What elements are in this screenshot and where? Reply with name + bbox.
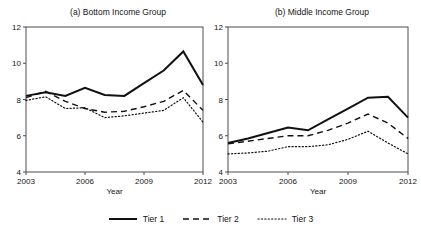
y-tick-label: 4	[219, 168, 224, 177]
legend-item-tier-2: Tier 2	[182, 214, 238, 224]
panel-b-plot: 46810122003200620092012Year	[205, 0, 421, 200]
figure: (a) Bottom Income Group 4681012200320062…	[0, 0, 421, 232]
x-axis-label: Year	[106, 187, 123, 196]
legend-swatch-tier2	[182, 214, 212, 224]
legend-item-tier-1: Tier 1	[108, 214, 164, 224]
y-tick-label: 10	[12, 59, 21, 68]
series-line-tier-2	[228, 114, 408, 144]
legend-swatch-tier3	[257, 214, 287, 224]
x-tick-label: 2012	[399, 177, 417, 186]
series-line-tier-1	[26, 51, 203, 95]
x-axis-label: Year	[310, 187, 327, 196]
chart-panel-a: (a) Bottom Income Group 4681012200320062…	[0, 0, 210, 200]
legend-label-tier-1: Tier 1	[143, 214, 164, 224]
y-tick-label: 4	[17, 168, 22, 177]
y-tick-label: 8	[17, 96, 22, 105]
plot-frame	[26, 27, 203, 172]
legend-label-tier-3: Tier 3	[292, 214, 313, 224]
x-tick-label: 2009	[135, 177, 153, 186]
x-tick-label: 2003	[17, 177, 35, 186]
panel-a-plot: 46810122003200620092012Year	[0, 0, 210, 200]
x-tick-label: 2003	[219, 177, 237, 186]
x-tick-label: 2009	[339, 177, 357, 186]
chart-panel-b: (b) Middle Income Group 4681012200320062…	[205, 0, 421, 200]
chart-legend: Tier 1Tier 2Tier 3	[0, 205, 421, 232]
y-tick-label: 10	[214, 59, 223, 68]
y-tick-label: 6	[219, 132, 224, 141]
y-tick-label: 12	[214, 23, 223, 32]
x-tick-label: 2006	[76, 177, 94, 186]
plot-frame	[228, 27, 408, 172]
legend-item-tier-3: Tier 3	[257, 214, 313, 224]
y-tick-label: 6	[17, 132, 22, 141]
legend-label-tier-2: Tier 2	[217, 214, 238, 224]
series-line-tier-3	[228, 131, 408, 154]
series-line-tier-1	[228, 97, 408, 143]
series-line-tier-3	[26, 97, 203, 122]
y-tick-label: 12	[12, 23, 21, 32]
legend-swatch-tier1	[108, 214, 138, 224]
x-tick-label: 2006	[279, 177, 297, 186]
y-tick-label: 8	[219, 96, 224, 105]
